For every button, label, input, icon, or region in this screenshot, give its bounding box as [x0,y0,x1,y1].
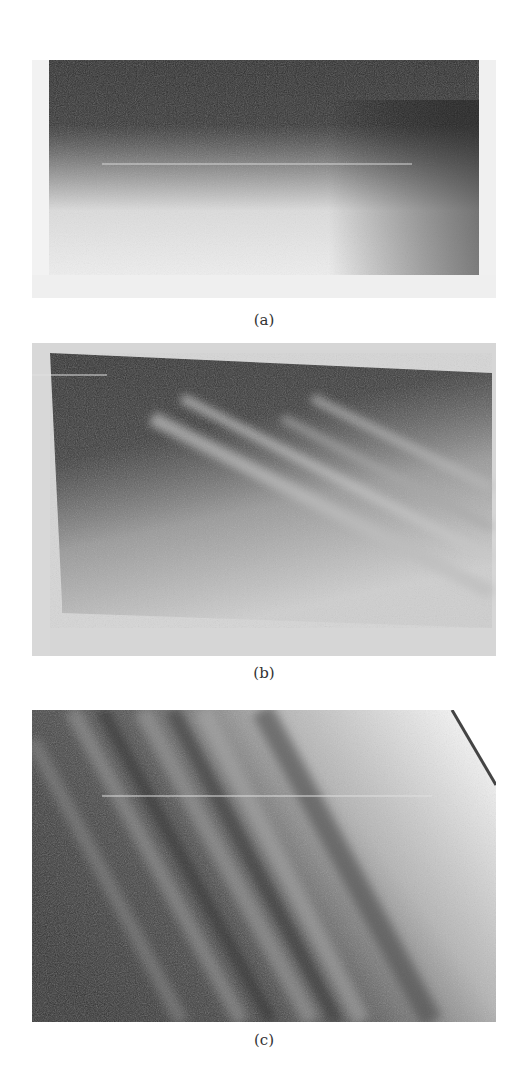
panel-c-label: (c) [0,1031,528,1049]
panel-b-image [32,343,496,656]
panel-c-image [32,710,496,1022]
panel-a-image [32,60,496,298]
panel-b-label: (b) [0,664,528,682]
panel-a-label: (a) [0,311,528,329]
